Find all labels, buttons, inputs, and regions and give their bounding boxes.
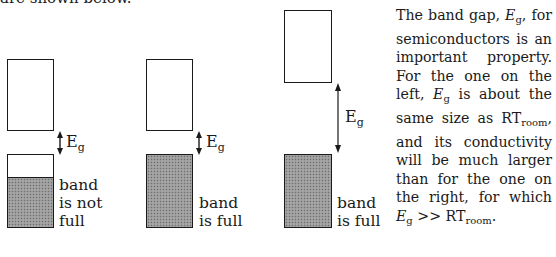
valence-band-box — [146, 154, 193, 228]
band-gap-label: Eg — [66, 133, 85, 157]
double-arrow-icon — [194, 131, 204, 155]
band-gap-label: Eg — [206, 133, 225, 157]
valence-band-box — [284, 154, 332, 228]
partially-filled-band — [8, 177, 53, 227]
filled-band — [147, 155, 192, 227]
double-arrow-icon — [333, 83, 343, 153]
band-gap-explanation: The band gap, Eg, for semiconductors is … — [396, 6, 552, 231]
filled-band — [285, 155, 331, 227]
conduction-band-box — [146, 59, 193, 131]
valence-band-box — [7, 154, 54, 228]
band-status-label: band is full — [337, 194, 380, 230]
header-text-fragment: are shown below. — [0, 0, 132, 7]
conduction-band-box — [284, 10, 332, 83]
double-arrow-icon — [55, 131, 65, 155]
band-status-label: band is not full — [59, 176, 102, 230]
band-status-label: band is full — [199, 194, 242, 230]
band-gap-label: Eg — [345, 108, 364, 132]
conduction-band-box — [7, 59, 54, 131]
